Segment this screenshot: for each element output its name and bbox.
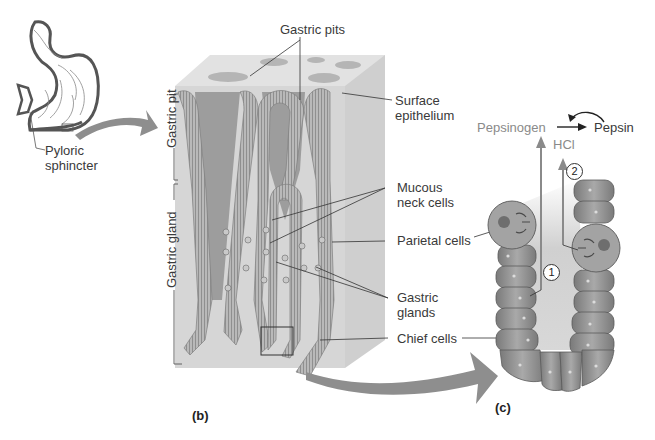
label-line: sphincter	[45, 158, 98, 173]
label-hcl: HCl	[553, 137, 575, 152]
label-line: Pyloric	[45, 143, 98, 158]
label-gastric-pit-bracket: Gastric pit	[164, 89, 179, 148]
label-line: Gastric	[397, 290, 438, 305]
label-pyloric-sphincter: Pyloric sphincter	[45, 143, 98, 173]
label-line: Surface	[395, 93, 454, 108]
gastric-tissue-block	[175, 55, 385, 376]
label-pepsinogen: Pepsinogen	[477, 120, 546, 135]
label-pepsin: Pepsin	[594, 120, 634, 135]
panel-label-b: (b)	[192, 408, 209, 423]
label-gastric-glands: Gastric glands	[397, 290, 438, 320]
step-2-badge: 2	[566, 163, 583, 180]
diagram-canvas	[0, 0, 655, 440]
label-surface-epithelium: Surface epithelium	[395, 93, 454, 123]
label-line: Mucous	[397, 180, 454, 195]
label-gastric-pits: Gastric pits	[280, 22, 345, 37]
gastric-gland-closeup	[488, 180, 620, 391]
label-line: epithelium	[395, 108, 454, 123]
label-mucous-neck-cells: Mucous neck cells	[397, 180, 454, 210]
panel-label-c: (c)	[495, 400, 511, 415]
label-parietal-cells: Parietal cells	[397, 233, 471, 248]
step-1-badge: 1	[543, 264, 560, 281]
label-chief-cells: Chief cells	[397, 331, 457, 346]
label-line: neck cells	[397, 195, 454, 210]
label-line: glands	[397, 305, 438, 320]
label-gastric-gland-bracket: Gastric gland	[164, 211, 179, 288]
